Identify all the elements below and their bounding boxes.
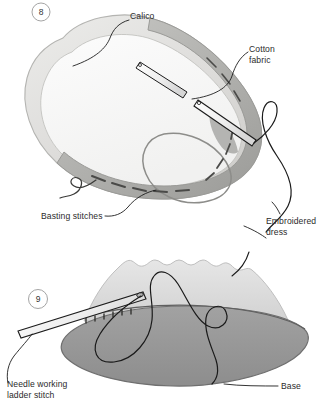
- label-embroidered-dress: Embroidered dress: [266, 216, 316, 238]
- leader-base: [224, 384, 278, 386]
- step-number-9-badge: 9: [29, 290, 48, 309]
- base-shape: [61, 306, 308, 386]
- figure-8-group: 8: [25, 3, 291, 238]
- figure-9-group: 9: [7, 252, 308, 386]
- label-base: Base: [281, 381, 301, 392]
- label-basting-stitches: Basting stitches: [41, 211, 103, 222]
- step-number-8: 8: [39, 7, 44, 17]
- label-cotton-fabric: Cotton fabric: [249, 44, 275, 66]
- leader-embroidered-2: [244, 226, 266, 238]
- label-needle-ladder-stitch: Needle working ladder stitch: [7, 379, 67, 401]
- step-number-8-badge: 8: [32, 3, 50, 21]
- step-number-9: 9: [36, 294, 41, 304]
- illustration-page: 8: [0, 0, 321, 414]
- leader-needle: [7, 334, 32, 383]
- leader-embroidered: [272, 202, 280, 214]
- label-calico: Calico: [130, 11, 154, 22]
